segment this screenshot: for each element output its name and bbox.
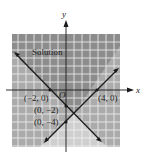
solution-label: Solution (32, 47, 63, 57)
point-label: (0, −2) (34, 105, 59, 115)
y-axis-label: y (61, 9, 66, 19)
point-4-0 (95, 88, 98, 91)
point-0-neg2 (64, 104, 67, 107)
origin-label: O (59, 90, 66, 100)
x-axis-label: x (135, 85, 140, 95)
x-axis-arrow-icon (127, 88, 134, 93)
point-label: (−2, 0) (24, 93, 49, 103)
point-neg2-0 (48, 88, 51, 91)
point-0-neg4 (64, 120, 67, 123)
point-label: (0, −4) (34, 117, 59, 127)
y-axis-arrow-icon (64, 20, 69, 27)
inequality-graph: y x O Solution (−2, 0) (4, 0) (0, −2) (0… (0, 0, 147, 157)
point-label: (4, 0) (98, 93, 118, 103)
